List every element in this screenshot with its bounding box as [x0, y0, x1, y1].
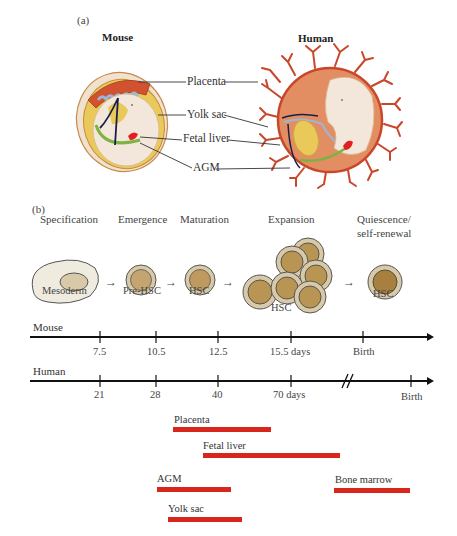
- human-tick-70-days: 70 days: [273, 389, 305, 400]
- human-tick-birth: Birth: [401, 391, 423, 402]
- callout-agm: AGM: [193, 161, 220, 173]
- site-label-yolk-sac: Yolk sac: [168, 503, 204, 514]
- mouse-tick-12-5: 12.5: [209, 346, 227, 357]
- human-tick-28: 28: [150, 389, 161, 400]
- cell-progression: → → → →: [32, 238, 402, 313]
- cell-label-hsc-expansion: HSC: [271, 302, 291, 313]
- mouse-tick-10-5: 10.5: [147, 346, 165, 357]
- stage-emergence: Emergence: [118, 213, 167, 225]
- mouse-tick-birth: Birth: [353, 346, 375, 357]
- stage-specification: Specification: [40, 213, 98, 225]
- site-label-agm: AGM: [157, 473, 182, 484]
- timeline-mouse-label: Mouse: [33, 321, 63, 333]
- callout-yolk-sac: Yolk sac: [187, 108, 226, 120]
- callout-placenta: Placenta: [187, 75, 226, 87]
- cell-label-hsc-maturation: HSC: [189, 285, 209, 296]
- site-bar-fetal-liver: [203, 453, 340, 458]
- stage-maturation: Maturation: [180, 213, 229, 225]
- stage-quiescence: Quiescence/: [357, 213, 411, 225]
- cell-label-mesoderm: Mesoderm: [42, 285, 87, 296]
- svg-text:→: →: [222, 275, 234, 289]
- callout-fetal-liver: Fetal liver: [183, 132, 230, 144]
- stage-self-renewal: self-renewal: [357, 227, 411, 239]
- human-timeline: [30, 374, 434, 388]
- site-label-bone-marrow: Bone marrow: [335, 474, 392, 485]
- human-embryo-illustration: [260, 44, 402, 188]
- site-bar-agm: [157, 487, 231, 492]
- human-tick-21: 21: [94, 389, 105, 400]
- site-bar-placenta: [173, 427, 271, 432]
- site-label-fetal-liver: Fetal liver: [203, 440, 246, 451]
- cell-label-hsc-quiescence: HSC: [373, 288, 393, 299]
- site-bar-bone-marrow: [334, 488, 410, 493]
- site-bar-yolk-sac: [168, 517, 242, 522]
- mouse-tick-7-5: 7.5: [93, 346, 106, 357]
- svg-text:→: →: [105, 275, 117, 289]
- svg-text:→: →: [165, 275, 177, 289]
- mouse-embryo-illustration: [64, 61, 180, 184]
- human-tick-40: 40: [212, 389, 223, 400]
- mouse-tick-15-5-days: 15.5 days: [270, 346, 310, 357]
- timeline-human-label: Human: [33, 365, 65, 377]
- stage-expansion: Expansion: [268, 213, 314, 225]
- site-label-placenta: Placenta: [174, 414, 210, 425]
- mouse-timeline: [30, 331, 434, 343]
- cell-label-pre-hsc: Pre-HSC: [123, 285, 161, 296]
- svg-text:→: →: [343, 275, 355, 289]
